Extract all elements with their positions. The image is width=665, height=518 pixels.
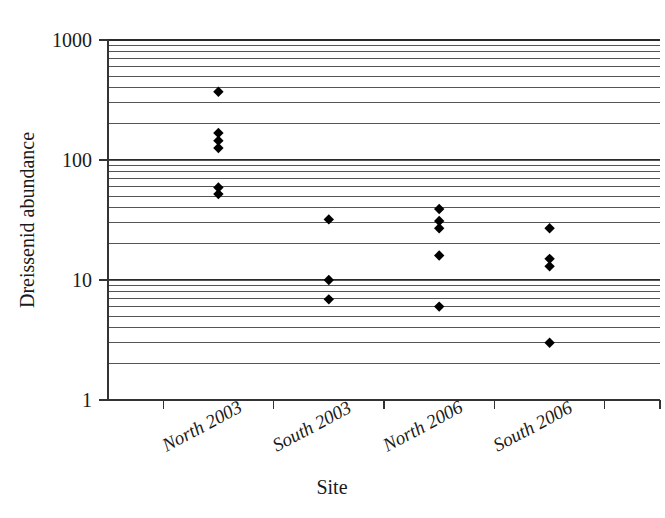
plot-svg: 1000100101 North 2003South 2003North 200… <box>0 0 665 518</box>
x-axis-title: Site <box>316 476 347 498</box>
scatter-plot-figure: 1000100101 North 2003South 2003North 200… <box>0 0 665 518</box>
y-axis-tick-label: 100 <box>62 149 92 171</box>
plot-background <box>0 0 665 518</box>
y-axis-title: Dreissenid abundance <box>16 132 38 308</box>
y-axis-tick-label: 10 <box>72 269 92 291</box>
y-axis-tick-label: 1000 <box>52 29 92 51</box>
y-axis-tick-label: 1 <box>82 389 92 411</box>
